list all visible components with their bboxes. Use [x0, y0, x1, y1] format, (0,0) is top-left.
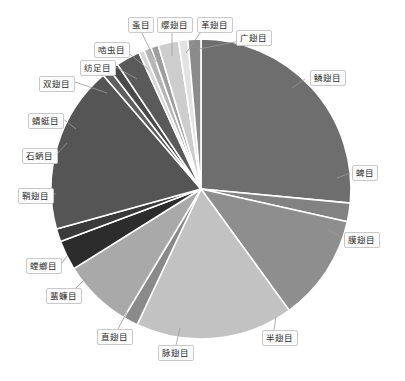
pie-slice-label[interactable]: 广翅目: [236, 30, 272, 46]
pie-slices-group: [51, 39, 351, 339]
pie-slice-label[interactable]: 双翅目: [39, 76, 75, 92]
pie-slice-label[interactable]: 蜻蜓目: [28, 113, 64, 129]
pie-slice-label[interactable]: 半翅目: [262, 330, 298, 346]
pie-chart-canvas: [0, 0, 405, 381]
pie-slice-label[interactable]: 鳞翅目: [310, 70, 346, 86]
pie-slice-label[interactable]: 啮虫目: [94, 42, 130, 58]
pie-slice-label[interactable]: 直翅目: [97, 329, 133, 345]
pie-slice-label[interactable]: 石蛃目: [22, 148, 58, 164]
pie-slice-label[interactable]: 缨翅目: [157, 17, 193, 33]
pie-slice-label[interactable]: 纺足目: [80, 60, 116, 76]
pie-slice-label[interactable]: 螳螂目: [26, 258, 62, 274]
pie-chart-figure: 鳞翅目蜱目膜翅目半翅目脉翅目直翅目蜚蠊目螳螂目鞘翅目石蛃目蜻蜓目双翅目纺足目啮虫…: [0, 0, 405, 381]
pie-slice-label[interactable]: 鞘翅目: [18, 188, 54, 204]
pie-slice-label[interactable]: 蚤目: [128, 17, 154, 33]
pie-slice-label[interactable]: 革翅目: [197, 17, 233, 33]
label-leader-line: [62, 256, 67, 263]
pie-slice-label[interactable]: 蜱目: [352, 165, 378, 181]
pie-slice-label[interactable]: 脉翅目: [158, 345, 194, 361]
pie-slice-label[interactable]: 膜翅目: [344, 232, 380, 248]
pie-slice[interactable]: [201, 39, 351, 203]
pie-slice-label[interactable]: 蜚蠊目: [46, 288, 82, 304]
